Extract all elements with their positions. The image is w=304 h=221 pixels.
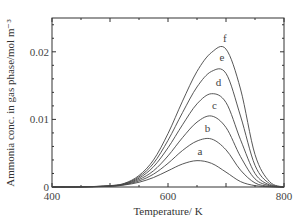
- curve-f: [52, 46, 284, 187]
- data-curves: [52, 46, 284, 187]
- x-axis-title: Temperature/ K: [133, 205, 202, 217]
- curve-b: [52, 138, 284, 187]
- curve-label-e: e: [219, 51, 224, 63]
- curve-label-b: b: [205, 122, 211, 134]
- y-tick-label: 0.02: [30, 46, 49, 58]
- y-tick-label: 0.01: [30, 113, 49, 125]
- x-tick-label: 800: [276, 190, 293, 202]
- curve-labels: abcdef: [197, 32, 227, 158]
- x-tick-label: 600: [160, 190, 177, 202]
- y-axis-title: Ammonia conc. in gas phase/mol m⁻³: [4, 19, 16, 187]
- curve-label-a: a: [197, 145, 202, 157]
- curve-label-c: c: [212, 99, 217, 111]
- y-tick-label: 0: [44, 181, 50, 193]
- curve-label-d: d: [216, 76, 222, 88]
- chart: 400600800 00.010.02 abcdef Temperature/ …: [0, 0, 304, 221]
- curve-c: [52, 116, 284, 187]
- curve-label-f: f: [223, 32, 227, 44]
